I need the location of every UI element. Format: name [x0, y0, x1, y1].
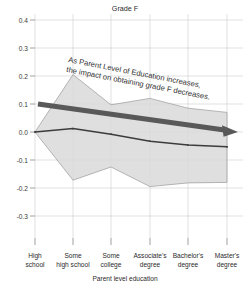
- xtick-label-some-college-line1: Some: [102, 252, 120, 259]
- x-axis-tickmarks: [35, 238, 227, 245]
- data-point-bachelors-degree: [187, 144, 189, 146]
- x-axis-title: Parent level education: [92, 275, 158, 282]
- xtick-label-masters-degree-line2: degree: [217, 261, 238, 269]
- data-point-masters-degree: [226, 146, 228, 148]
- xtick-label-some-high-school-line2: high school: [56, 261, 90, 269]
- x-axis-category-labels: High school Some high school Some colleg…: [25, 252, 240, 269]
- ytick-label-0: 0.4: [19, 17, 28, 24]
- data-point-some-college: [110, 133, 112, 135]
- xtick-label-associates-degree-line1: Associate's: [133, 252, 167, 259]
- ytick-label-3: 0.1: [19, 101, 28, 108]
- xtick-label-masters-degree-line1: Master's: [215, 252, 240, 259]
- ytick-label-2: 0.2: [19, 73, 28, 80]
- xtick-label-bachelors-degree-line2: degree: [178, 261, 199, 269]
- ytick-label-7: -0.3: [17, 213, 29, 220]
- xtick-label-high-school-line2: school: [25, 261, 45, 268]
- xtick-label-bachelors-degree-line1: Bachelor's: [173, 252, 204, 259]
- chart-title: Grade F: [112, 4, 139, 13]
- y-axis-tick-labels: 0.4 0.3 0.2 0.1 0.0 -0.1 -0.2 -0.3: [17, 17, 29, 220]
- ytick-label-5: -0.1: [17, 157, 29, 164]
- ytick-label-4: 0.0: [19, 129, 28, 136]
- xtick-label-some-college-line2: college: [101, 261, 122, 269]
- data-point-some-high-school: [72, 128, 74, 130]
- xtick-label-some-high-school-line1: Some: [64, 252, 82, 259]
- data-point-associates-degree: [149, 140, 151, 142]
- y-axis-tickmarks: [30, 20, 35, 216]
- xtick-label-associates-degree-line2: degree: [140, 261, 161, 269]
- data-point-high-school: [34, 131, 36, 133]
- ytick-label-6: -0.2: [17, 185, 29, 192]
- ytick-label-1: 0.3: [19, 45, 28, 52]
- chart-container: Grade F 0.4 0.3 0.2 0.1 0.0: [0, 0, 250, 289]
- grade-f-impact-chart: Grade F 0.4 0.3 0.2 0.1 0.0: [0, 0, 250, 289]
- xtick-label-high-school-line1: High: [28, 252, 42, 260]
